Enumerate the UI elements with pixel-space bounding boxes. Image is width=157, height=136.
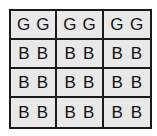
cell-letter: B bbox=[18, 104, 29, 121]
grid-cell: BB bbox=[104, 98, 150, 127]
cell-letter: B bbox=[131, 45, 142, 62]
cell-letter: B bbox=[37, 74, 48, 91]
grid-cell: BB bbox=[57, 40, 103, 69]
cell-letter: G bbox=[63, 16, 76, 33]
cell-letter: B bbox=[83, 104, 94, 121]
cell-letter: B bbox=[65, 104, 76, 121]
cell-letter: G bbox=[17, 16, 30, 33]
cell-letter: B bbox=[112, 104, 123, 121]
cell-letter: B bbox=[83, 74, 94, 91]
grid-cell: GG bbox=[11, 11, 57, 40]
grid-cell: BB bbox=[11, 69, 57, 98]
cell-letter: B bbox=[37, 104, 48, 121]
grid-cell: GG bbox=[57, 11, 103, 40]
cell-letter: B bbox=[112, 45, 123, 62]
grid-cell: BB bbox=[11, 98, 57, 127]
grid-cell: BB bbox=[57, 69, 103, 98]
cell-letter: B bbox=[112, 74, 123, 91]
cell-letter: B bbox=[131, 74, 142, 91]
letter-grid: GGGGGGBBBBBBBBBBBBBBBBBB bbox=[9, 9, 152, 129]
cell-letter: G bbox=[82, 16, 95, 33]
cell-letter: B bbox=[83, 45, 94, 62]
cell-letter: B bbox=[18, 45, 29, 62]
grid-cell: BB bbox=[104, 69, 150, 98]
grid-cell: BB bbox=[11, 40, 57, 69]
cell-letter: B bbox=[37, 45, 48, 62]
grid-cell: BB bbox=[57, 98, 103, 127]
cell-letter: G bbox=[36, 16, 49, 33]
cell-letter: G bbox=[110, 16, 123, 33]
cell-letter: B bbox=[131, 104, 142, 121]
grid-cell: BB bbox=[104, 40, 150, 69]
cell-letter: G bbox=[130, 16, 143, 33]
cell-letter: B bbox=[18, 74, 29, 91]
grid-cell: GG bbox=[104, 11, 150, 40]
cell-letter: B bbox=[65, 74, 76, 91]
cell-letter: B bbox=[65, 45, 76, 62]
